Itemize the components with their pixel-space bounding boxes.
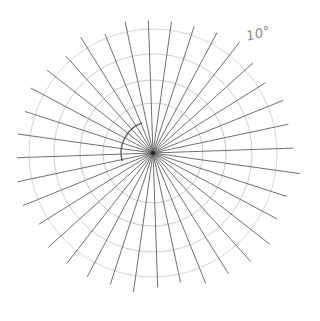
- grid-ray: [153, 83, 265, 153]
- grid-ray: [31, 88, 153, 153]
- grid-ray: [153, 153, 277, 219]
- grid-ray: [153, 101, 283, 153]
- polar-grid: [0, 0, 320, 321]
- grid-ray: [39, 153, 153, 224]
- grid-ray: [105, 34, 153, 153]
- grid-ray: [87, 153, 153, 277]
- grid-ray: [153, 153, 205, 283]
- grid-ray: [23, 153, 153, 205]
- grid-ray: [153, 153, 228, 273]
- center-point: [151, 151, 155, 155]
- grid-ray: [153, 33, 217, 153]
- radial-rays: [17, 21, 299, 292]
